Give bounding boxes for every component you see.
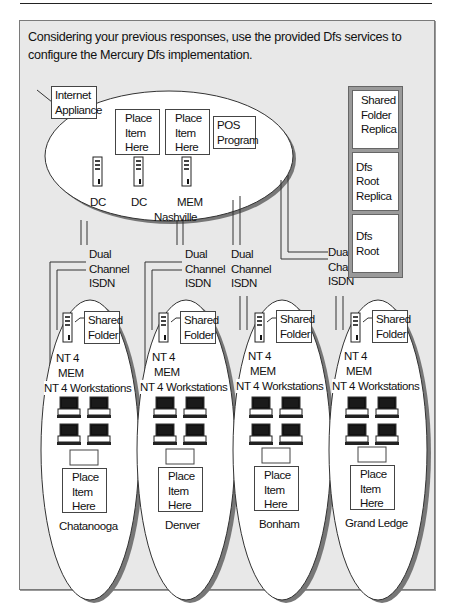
dfs-item-palette: Shared Folder Replica Dfs Root Replica D…	[348, 86, 403, 278]
link-label-1: Dual Channel ISDN	[89, 247, 129, 291]
branch-4-workstations-label: NT 4 Workstations	[332, 379, 419, 393]
link-label-2: Dual Channel ISDN	[185, 247, 225, 291]
internet-appliance-box: Internet Appliance	[51, 86, 97, 119]
link-label-line: ISDN	[185, 276, 225, 291]
server-label-mem: MEM	[177, 195, 203, 209]
link-label-line: Dual	[231, 247, 271, 262]
branch-3-site-name: Bonham	[259, 517, 299, 531]
link-label-line: Dual	[89, 247, 129, 262]
hub-drop-slot-1[interactable]: Place Item Here	[115, 109, 160, 155]
branch-3-server-role: MEM	[250, 364, 276, 378]
branch-1-workstations-label: NT 4 Workstations	[44, 381, 131, 395]
branch-2-drop-slot[interactable]: Place Item Here	[158, 467, 203, 512]
branch-3-shared-folder: Shared Folder	[276, 310, 312, 343]
link-label-line: ISDN	[231, 276, 271, 291]
server-label-dc-1: DC	[90, 195, 106, 209]
branch-1-shared-folder: Shared Folder	[84, 311, 120, 344]
branch-4-site-name: Grand Ledge	[345, 516, 408, 530]
branch-4-server-role: MEM	[346, 364, 372, 378]
branch-4-drop-slot[interactable]: Place Item Here	[350, 465, 395, 510]
hub-site-name: Nashville	[154, 210, 197, 224]
branch-4-server-os: NT 4	[344, 349, 367, 363]
branch-2-server-role: MEM	[154, 365, 180, 379]
link-label-line: Dual	[185, 247, 225, 262]
link-label-line: ISDN	[89, 276, 129, 291]
server-label-dc-2: DC	[131, 195, 147, 209]
link-label-line: Channel	[89, 262, 129, 277]
palette-item-dfs-root[interactable]: Dfs Root	[352, 214, 399, 273]
link-label-3: Dual Channel ISDN	[231, 247, 271, 291]
branch-1-server-os: NT 4	[56, 351, 79, 365]
palette-item-shared-folder-replica[interactable]: Shared Folder Replica	[352, 90, 399, 149]
branch-1-site-name: Chatanooga	[59, 519, 118, 533]
branch-4-shared-folder: Shared Folder	[372, 310, 408, 343]
branch-2-site-name: Denver	[165, 518, 200, 532]
pos-program-box: POS Program	[213, 116, 256, 149]
branch-1-drop-slot[interactable]: Place Item Here	[62, 468, 107, 513]
branch-1-server-role: MEM	[58, 366, 84, 380]
branch-2-shared-folder: Shared Folder	[180, 311, 216, 344]
branch-3-server-os: NT 4	[248, 349, 271, 363]
branch-3-workstations-label: NT 4 Workstations	[236, 379, 323, 393]
hub-drop-slot-2[interactable]: Place Item Here	[165, 109, 210, 155]
branch-3-drop-slot[interactable]: Place Item Here	[254, 466, 299, 511]
link-label-line: Channel	[231, 262, 271, 277]
link-label-line: Channel	[185, 262, 225, 277]
palette-item-dfs-root-replica[interactable]: Dfs Root Replica	[352, 152, 399, 211]
branch-2-server-os: NT 4	[152, 350, 175, 364]
branch-2-workstations-label: NT 4 Workstations	[140, 380, 227, 394]
